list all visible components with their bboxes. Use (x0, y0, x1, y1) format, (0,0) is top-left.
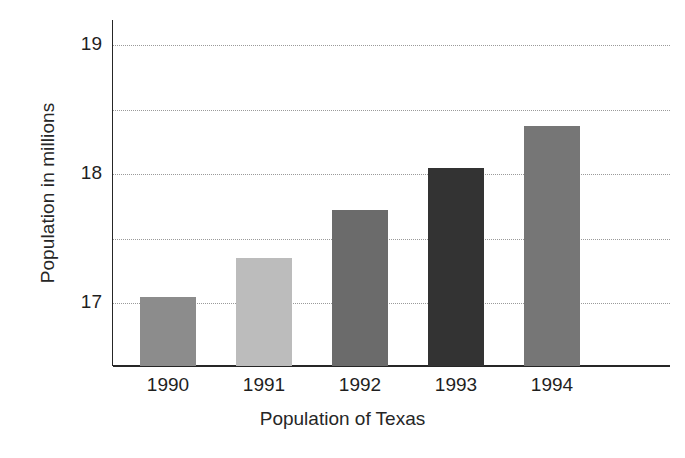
x-tick-label-1994: 1994 (507, 374, 597, 396)
x-tick-label-1993: 1993 (411, 374, 501, 396)
bar-1993 (428, 168, 484, 366)
bar-1994 (524, 126, 580, 366)
y-tick-label-18: 18 (62, 162, 102, 184)
x-tick-label-1991: 1991 (219, 374, 309, 396)
gridline (113, 110, 670, 111)
x-axis-title: Population of Texas (0, 408, 685, 430)
x-tick-label-1990: 1990 (123, 374, 213, 396)
gridline (113, 45, 670, 46)
y-axis-title: Population in millions (37, 63, 59, 323)
bar-1990 (140, 297, 196, 366)
plot-area (113, 20, 670, 366)
x-tick-label-1992: 1992 (315, 374, 405, 396)
bar-1992 (332, 210, 388, 366)
gridline (113, 174, 670, 175)
gridline (113, 303, 670, 304)
y-tick-label-19: 19 (62, 33, 102, 55)
y-tick-label-17: 17 (62, 291, 102, 313)
bar-1991 (236, 258, 292, 366)
gridline (113, 239, 670, 240)
bar-chart: Population in millions 191817 1990199119… (0, 0, 685, 458)
